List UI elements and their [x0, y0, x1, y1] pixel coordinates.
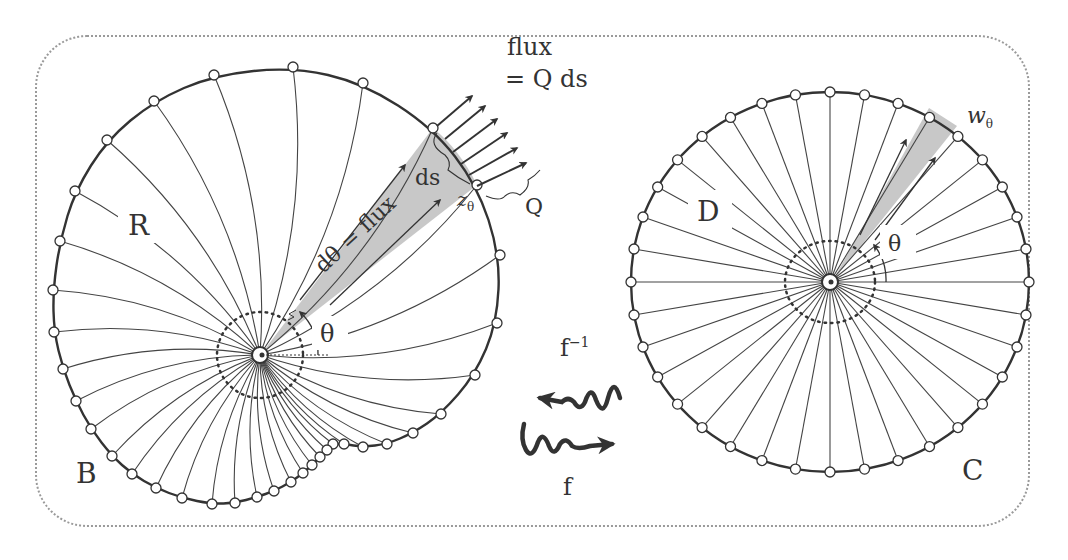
boundary-node — [315, 452, 325, 462]
boundary-node — [86, 424, 96, 434]
forward-map-label: f — [563, 475, 572, 499]
boundary-node — [286, 477, 296, 487]
boundary-node — [428, 123, 438, 133]
boundary-node — [358, 442, 368, 452]
disk-node — [757, 456, 767, 466]
boundary-node — [436, 409, 446, 419]
boundary-node — [151, 483, 161, 493]
disk-node — [653, 372, 663, 382]
region-label-d: D — [697, 198, 719, 226]
disk-node — [1021, 310, 1031, 320]
disk-node — [757, 98, 767, 108]
disk-node — [673, 399, 683, 409]
disk-node — [629, 244, 639, 254]
disk-node — [697, 423, 707, 433]
disk-node — [790, 90, 800, 100]
boundary-node — [470, 370, 480, 380]
disk-node — [726, 442, 736, 452]
point-label-w: wθ — [967, 105, 993, 130]
boundary-node — [252, 492, 262, 502]
disk-node — [925, 112, 935, 122]
boundary-node — [102, 135, 112, 145]
disk-node — [726, 112, 736, 122]
boundary-node — [48, 285, 58, 295]
flux-formula: = Q ds — [505, 67, 588, 91]
domain-label-b: B — [76, 460, 97, 488]
boundary-node — [492, 318, 502, 328]
boundary-node — [127, 469, 137, 479]
angle-label-right: θ — [888, 233, 901, 255]
domain-b — [48, 62, 540, 509]
boundary-node — [298, 468, 308, 478]
disk-node — [673, 155, 683, 165]
disk-node — [825, 87, 835, 97]
domain-label-c: C — [962, 457, 983, 485]
disk-node — [997, 182, 1007, 192]
boundary-node — [495, 250, 505, 260]
boundary-node — [382, 439, 392, 449]
boundary-node — [149, 96, 159, 106]
domain-c — [626, 87, 1034, 477]
boundary-node — [269, 486, 279, 496]
boundary-node — [49, 327, 59, 337]
point-label-z: zθ — [457, 190, 474, 213]
boundary-node — [408, 428, 418, 438]
boundary-node — [70, 186, 80, 196]
inverse-map-label: f−1 — [560, 335, 590, 360]
disk-node — [697, 131, 707, 141]
region-label-r: R — [128, 212, 149, 240]
flux-label: flux — [507, 35, 552, 59]
disk-node — [653, 182, 663, 192]
disk-node — [626, 277, 636, 287]
disk-node — [638, 212, 648, 222]
disk-node — [1012, 212, 1022, 222]
forward-map-arrow — [522, 424, 612, 454]
disk-node — [1012, 342, 1022, 352]
disk-node — [997, 372, 1007, 382]
boundary-node — [339, 439, 349, 449]
inverse-map-arrow — [540, 387, 620, 409]
flux-strip — [262, 128, 477, 353]
boundary-node — [58, 364, 68, 374]
disk-node — [893, 98, 903, 108]
disk-node — [860, 464, 870, 474]
boundary-node — [207, 499, 217, 509]
disk-node — [893, 456, 903, 466]
disk-node — [925, 442, 935, 452]
angle-label-left: θ — [320, 322, 334, 346]
disk-node — [1021, 244, 1031, 254]
boundary-node — [209, 70, 219, 80]
density-label-q: Q — [525, 196, 543, 218]
disk-node — [825, 467, 835, 477]
disk-node — [953, 423, 963, 433]
boundary-node — [288, 62, 298, 72]
boundary-node — [230, 498, 240, 508]
boundary-node — [177, 493, 187, 503]
disk-node — [953, 131, 963, 141]
disk-node — [1024, 277, 1034, 287]
disk-node — [629, 310, 639, 320]
arc-length-label: ds — [415, 167, 440, 189]
boundary-node — [358, 78, 368, 88]
disk-node — [977, 399, 987, 409]
boundary-node — [107, 451, 117, 461]
disk-node — [977, 155, 987, 165]
disk-node — [860, 90, 870, 100]
disk-node — [638, 342, 648, 352]
boundary-node — [55, 236, 65, 246]
boundary-nodes — [48, 62, 505, 509]
boundary-node — [307, 460, 317, 470]
boundary-node — [71, 396, 81, 406]
disk-node — [790, 464, 800, 474]
